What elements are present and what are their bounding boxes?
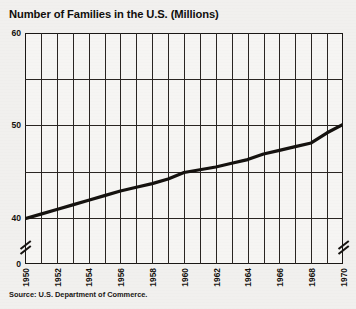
x-tick-label-1970: 1970 (340, 268, 348, 287)
x-tick-label-1958: 1958 (149, 268, 157, 287)
y-tick-label-60: 60 (0, 29, 21, 38)
y-tick-label-0: 0 (0, 260, 21, 269)
chart-title: Number of Families in the U.S. (Millions… (9, 8, 219, 20)
x-tick-label-1962: 1962 (213, 268, 221, 287)
y-tick-label-50: 50 (0, 121, 21, 130)
y-axis-break-left-icon (18, 240, 34, 254)
source-note: Source: U.S. Department of Commerce. (9, 290, 147, 299)
x-tick-label-1950: 1950 (22, 268, 30, 287)
data-series-line (25, 33, 343, 264)
chart-figure: Number of Families in the U.S. (Millions… (0, 0, 356, 309)
x-tick-label-1960: 1960 (181, 268, 189, 287)
x-tick-label-1968: 1968 (308, 268, 316, 287)
x-tick-label-1966: 1966 (276, 268, 284, 287)
x-tick-label-1956: 1956 (117, 268, 125, 287)
y-tick-label-40: 40 (0, 214, 21, 223)
y-axis-break-right-icon (336, 240, 352, 254)
x-tick-label-1954: 1954 (85, 268, 93, 287)
x-tick-label-1964: 1964 (244, 268, 252, 287)
plot-area (25, 33, 343, 264)
x-tick-label-1952: 1952 (54, 268, 62, 287)
